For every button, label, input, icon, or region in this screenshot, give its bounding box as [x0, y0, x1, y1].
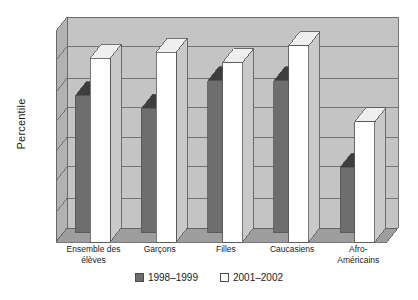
filled-square-icon: [135, 273, 144, 282]
bar-chart: Percentile Ensemble des élèves Garçons F…: [0, 0, 418, 300]
category-label: Afro- Américains: [318, 244, 398, 265]
empty-square-icon: [220, 273, 229, 282]
legend-label: 2001–2002: [233, 272, 283, 283]
chart-legend: 1998–1999 2001–2002: [0, 272, 418, 283]
legend-label: 1998–1999: [148, 272, 198, 283]
legend-item-1998-1999: 1998–1999: [135, 272, 198, 283]
legend-item-2001-2002: 2001–2002: [220, 272, 283, 283]
